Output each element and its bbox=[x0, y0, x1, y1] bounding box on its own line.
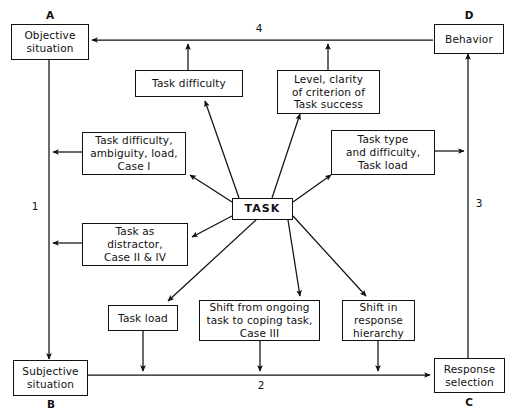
node-shift-in-response-label: Shift in response hierarchy bbox=[350, 301, 407, 339]
node-behavior[interactable]: Behavior bbox=[434, 24, 504, 54]
diagram-canvas: Objective situation Behavior Task diffic… bbox=[0, 0, 519, 419]
edge-label-3: 3 bbox=[470, 197, 488, 209]
node-shift-from-ongoing[interactable]: Shift from ongoing task to coping task, … bbox=[199, 300, 320, 341]
node-task-difficulty[interactable]: Task difficulty bbox=[135, 70, 243, 97]
edge-task-to-shiftongoing bbox=[288, 220, 300, 296]
edge-task-to-taskambiguity bbox=[190, 175, 232, 202]
node-task-difficulty-ambiguity-label: Task difficulty, ambiguity, load, Case I bbox=[87, 134, 181, 172]
edge-label-4: 4 bbox=[250, 22, 268, 34]
node-objective-situation-label: Objective situation bbox=[21, 29, 78, 55]
corner-label-d: D bbox=[452, 9, 486, 21]
corner-label-a: A bbox=[33, 9, 67, 21]
edge-task-to-tasktype bbox=[293, 175, 331, 202]
corner-label-c: C bbox=[452, 396, 486, 408]
node-subjective-situation[interactable]: Subjective situation bbox=[13, 360, 88, 396]
corner-label-b: B bbox=[34, 398, 68, 410]
node-task-as-distractor-label: Task as distractor, Case II & IV bbox=[101, 225, 169, 263]
node-task-difficulty-ambiguity[interactable]: Task difficulty, ambiguity, load, Case I bbox=[82, 132, 186, 175]
edge-label-2: 2 bbox=[252, 379, 270, 391]
node-shift-in-response[interactable]: Shift in response hierarchy bbox=[342, 300, 415, 341]
node-task[interactable]: TASK bbox=[232, 198, 293, 220]
edge-label-1: 1 bbox=[26, 200, 44, 212]
node-level-clarity-label: Level, clarity of criterion of Task succ… bbox=[289, 73, 368, 111]
node-response-selection[interactable]: Response selection bbox=[434, 358, 505, 393]
node-shift-from-ongoing-label: Shift from ongoing task to coping task, … bbox=[203, 301, 315, 339]
edge-task-to-shiftresponse bbox=[293, 216, 366, 296]
node-task-type-label: Task type and difficulty, Task load bbox=[343, 133, 423, 171]
edge-task-to-taskdifficulty bbox=[205, 101, 239, 198]
node-task-type[interactable]: Task type and difficulty, Task load bbox=[331, 130, 435, 175]
node-subjective-situation-label: Subjective situation bbox=[19, 365, 81, 391]
node-task-load-label: Task load bbox=[115, 312, 171, 325]
node-task-as-distractor[interactable]: Task as distractor, Case II & IV bbox=[82, 223, 188, 266]
node-response-selection-label: Response selection bbox=[441, 363, 499, 389]
edge-task-to-distractor bbox=[192, 216, 232, 237]
node-level-clarity[interactable]: Level, clarity of criterion of Task succ… bbox=[277, 70, 380, 114]
node-behavior-label: Behavior bbox=[442, 33, 496, 46]
node-task-label: TASK bbox=[241, 202, 283, 215]
node-task-difficulty-label: Task difficulty bbox=[149, 77, 229, 90]
node-task-load[interactable]: Task load bbox=[108, 305, 178, 331]
node-objective-situation[interactable]: Objective situation bbox=[11, 24, 89, 60]
edge-task-to-levelclarity bbox=[272, 114, 300, 198]
